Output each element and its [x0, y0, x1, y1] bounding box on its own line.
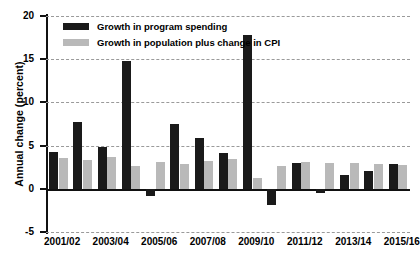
bar — [398, 165, 407, 189]
bar — [195, 138, 204, 189]
gridline — [46, 232, 410, 233]
y-axis-tick-label: 20 — [0, 10, 34, 21]
legend-item-program-spending: Growth in program spending — [63, 20, 280, 33]
bar — [131, 166, 140, 188]
bar — [170, 124, 179, 189]
y-axis-tick-label: 10 — [0, 96, 34, 107]
bar — [292, 163, 301, 189]
bar — [204, 161, 213, 189]
bar — [180, 164, 189, 189]
x-axis-tick-label: 2013/14 — [335, 236, 371, 247]
bar — [301, 162, 310, 189]
bar — [49, 152, 58, 189]
bar — [389, 164, 398, 189]
x-axis-labels: 2001/022003/042005/062007/082009/102011/… — [46, 236, 410, 256]
legend-item-label: Growth in population plus change in CPI — [97, 38, 280, 48]
bar-group — [386, 16, 410, 232]
legend-item-label: Growth in program spending — [97, 22, 227, 32]
chart-legend: Growth in program spending Growth in pop… — [63, 20, 280, 52]
legend-swatch-icon — [63, 23, 89, 30]
bar — [98, 147, 107, 188]
bar — [122, 61, 131, 189]
bar — [316, 189, 325, 193]
y-axis-tick-label: -5 — [0, 226, 34, 237]
bar — [277, 166, 286, 188]
bar — [73, 122, 82, 189]
legend-swatch-icon — [63, 39, 89, 46]
bar — [146, 189, 155, 196]
bar — [156, 162, 165, 189]
bar-group — [361, 16, 385, 232]
y-axis-tick-label: 15 — [0, 53, 34, 64]
x-axis-tick-label: 2009/10 — [238, 236, 274, 247]
bar — [243, 35, 252, 189]
x-axis-tick-label: 2007/08 — [190, 236, 226, 247]
bar-group — [289, 16, 313, 232]
x-axis-tick-label: 2005/06 — [141, 236, 177, 247]
x-axis-tick-label: 2001/02 — [44, 236, 80, 247]
x-axis-tick-label: 2003/04 — [93, 236, 129, 247]
x-axis-tick-label: 2015/16 — [384, 236, 420, 247]
bar-group — [313, 16, 337, 232]
y-axis-tick-label: 5 — [0, 140, 34, 151]
y-axis-tick-label: 0 — [0, 183, 34, 194]
bar — [59, 158, 68, 189]
bar-group — [337, 16, 361, 232]
bar — [340, 175, 349, 189]
bar — [219, 153, 228, 188]
bar — [267, 189, 276, 205]
x-axis-tick-label: 2011/12 — [287, 236, 323, 247]
bar — [83, 160, 92, 189]
bar — [107, 157, 116, 189]
bar — [374, 164, 383, 189]
bar — [253, 178, 262, 188]
bar — [350, 163, 359, 189]
bar — [364, 171, 373, 189]
legend-item-population-cpi: Growth in population plus change in CPI — [63, 36, 280, 49]
bar — [228, 159, 237, 188]
bar — [325, 163, 334, 189]
